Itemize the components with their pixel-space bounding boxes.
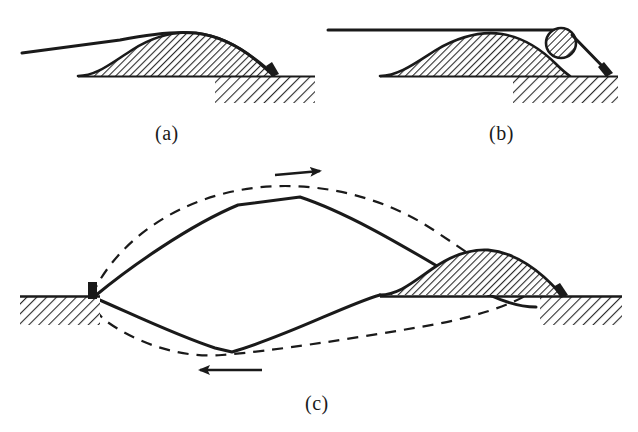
arrow-right-top [275,171,320,175]
panel-b-caption: (b) [489,122,514,145]
panel-c [0,155,638,390]
figure-root: (a) [0,0,638,432]
panel-a-caption: (a) [155,122,179,145]
left-ground-block [20,297,100,326]
panel-b [318,0,638,115]
ground-block [215,77,315,103]
right-ground-block [540,297,622,325]
panel-a [0,0,320,115]
left-anchor-peg [88,282,97,299]
ground-block [513,77,618,103]
hatched-mound [372,243,572,299]
panel-c-caption: (c) [305,392,329,415]
